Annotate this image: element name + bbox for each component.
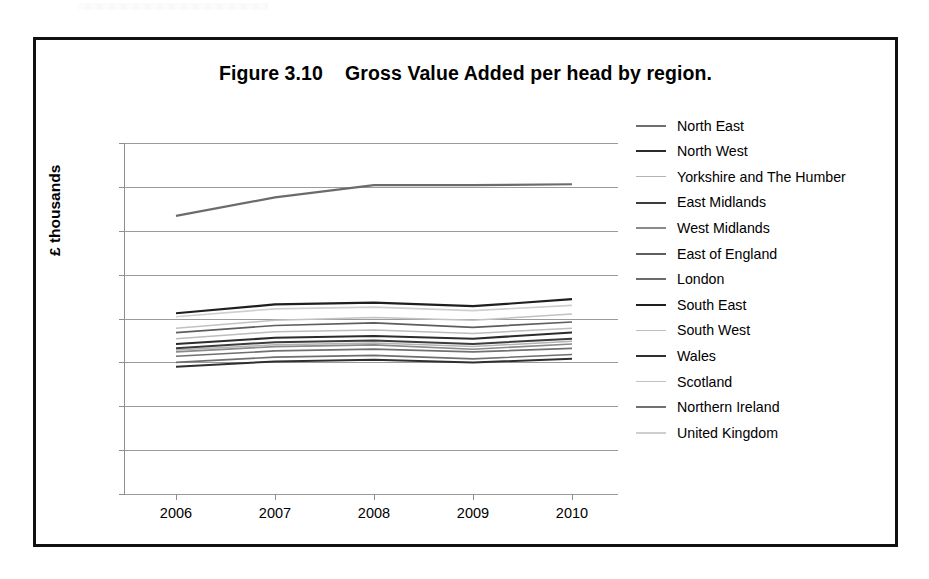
legend-item-label: North East: [677, 119, 744, 133]
legend-item-label: South East: [677, 298, 746, 312]
scan-artifact: [78, 3, 268, 10]
series-line: [176, 299, 572, 313]
series-line: [176, 184, 572, 216]
legend-item[interactable]: North West: [636, 139, 886, 165]
legend-item-label: United Kingdom: [677, 426, 778, 440]
plot-area: [124, 143, 618, 494]
series-lines: [124, 143, 618, 494]
legend-line-icon: [636, 355, 666, 357]
y-axis-title: £ thousands: [46, 165, 64, 256]
legend-line-icon: [636, 304, 666, 306]
legend-item-label: South West: [677, 323, 750, 337]
legend-line-icon: [636, 176, 666, 177]
x-axis-tick-label: 2008: [334, 505, 414, 521]
legend-line-icon: [636, 432, 666, 434]
legend-item[interactable]: Scotland: [636, 369, 886, 395]
legend-item[interactable]: London: [636, 267, 886, 293]
legend-line-icon: [636, 227, 666, 229]
gridline: [124, 494, 618, 495]
legend-item-label: North West: [677, 144, 748, 158]
legend-item-label: Scotland: [677, 375, 732, 389]
legend-item[interactable]: United Kingdom: [636, 420, 886, 446]
x-axis-tick-label: 2006: [136, 505, 216, 521]
legend-item[interactable]: East of England: [636, 241, 886, 267]
legend-item[interactable]: West Midlands: [636, 215, 886, 241]
series-line: [176, 314, 572, 328]
x-axis-tick: [572, 494, 573, 500]
figure-title: Figure 3.10 Gross Value Added per head b…: [36, 62, 895, 85]
legend-line-icon: [636, 381, 666, 382]
legend-item-label: Wales: [677, 349, 716, 363]
y-axis-tick: [119, 494, 125, 495]
legend-item[interactable]: Wales: [636, 343, 886, 369]
legend-item[interactable]: North East: [636, 113, 886, 139]
legend-item[interactable]: East Midlands: [636, 190, 886, 216]
legend-item[interactable]: Yorkshire and The Humber: [636, 164, 886, 190]
legend-item[interactable]: Northern Ireland: [636, 395, 886, 421]
legend-item[interactable]: South East: [636, 292, 886, 318]
legend-line-icon: [636, 406, 666, 408]
legend-line-icon: [636, 202, 666, 204]
x-axis-tick-label: 2010: [532, 505, 612, 521]
legend-line-icon: [636, 150, 666, 152]
legend-item-label: Yorkshire and The Humber: [677, 170, 846, 184]
legend-item-label: Northern Ireland: [677, 400, 780, 414]
x-axis-tick: [374, 494, 375, 500]
legend-item-label: East of England: [677, 247, 777, 261]
legend-line-icon: [636, 253, 666, 255]
legend-item-label: East Midlands: [677, 195, 766, 209]
legend-line-icon: [636, 330, 666, 331]
x-axis-tick-label: 2007: [235, 505, 315, 521]
series-line: [176, 359, 572, 367]
x-axis-tick: [275, 494, 276, 500]
legend-item-label: London: [677, 272, 724, 286]
x-axis-tick: [473, 494, 474, 500]
chart-legend: North EastNorth WestYorkshire and The Hu…: [636, 113, 886, 446]
figure-frame: Figure 3.10 Gross Value Added per head b…: [33, 37, 898, 547]
legend-item-label: West Midlands: [677, 221, 770, 235]
legend-line-icon: [636, 125, 666, 127]
legend-line-icon: [636, 278, 666, 280]
x-axis-tick-label: 2009: [433, 505, 513, 521]
x-axis-tick: [176, 494, 177, 500]
chart-area: 4035302520151050 £ thousands 20062007200…: [124, 106, 884, 526]
legend-item[interactable]: South West: [636, 318, 886, 344]
